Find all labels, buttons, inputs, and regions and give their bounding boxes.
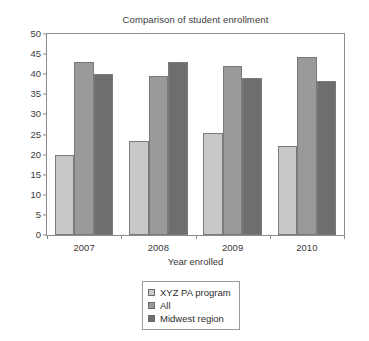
y-axis-tick-mark: [43, 214, 47, 215]
legend-item-label: All: [160, 301, 171, 311]
bar-chart: Comparison of student enrollment 0510152…: [0, 0, 369, 341]
x-axis-tick-mark: [47, 235, 48, 239]
bar: [203, 133, 223, 235]
legend-item-label: XYZ PA program: [160, 288, 231, 298]
y-axis-tick-label: 10: [30, 190, 41, 200]
y-axis-tick-mark: [43, 154, 47, 155]
bar: [317, 81, 337, 235]
y-axis-tick-label: 20: [30, 150, 41, 160]
legend-swatch-icon: [148, 302, 155, 309]
x-axis-tick-label: 2008: [148, 242, 169, 253]
x-axis-tick-mark: [121, 235, 122, 239]
y-axis-tick-mark: [43, 114, 47, 115]
legend-swatch-icon: [148, 289, 155, 296]
bar: [278, 146, 298, 235]
plot-area: 051015202530354045502007200820092010: [46, 33, 345, 236]
plot-inner: 051015202530354045502007200820092010: [47, 34, 344, 235]
y-axis-tick-mark: [43, 194, 47, 195]
x-axis-tick-mark: [196, 235, 197, 239]
legend-item-label: Midwest region: [160, 314, 224, 324]
legend-item: All: [148, 299, 231, 312]
y-axis-tick-label: 40: [30, 69, 41, 79]
x-axis-tick-mark: [344, 235, 345, 239]
bar: [242, 78, 262, 235]
bar: [55, 155, 75, 235]
x-axis-tick-mark: [270, 235, 271, 239]
y-axis-tick-label: 25: [30, 130, 41, 140]
y-axis-tick-mark: [43, 34, 47, 35]
y-axis-tick-label: 5: [36, 210, 41, 220]
legend-swatch-icon: [148, 315, 155, 322]
x-axis-tick-label: 2007: [74, 242, 95, 253]
chart-legend: XYZ PA programAllMidwest region: [142, 281, 240, 330]
bar: [149, 76, 169, 235]
y-axis-tick-mark: [43, 174, 47, 175]
y-axis-tick-mark: [43, 94, 47, 95]
legend-item: XYZ PA program: [148, 286, 231, 299]
y-axis-tick-label: 45: [30, 49, 41, 59]
x-axis-title: Year enrolled: [46, 256, 345, 267]
y-axis-tick-mark: [43, 74, 47, 75]
bar: [129, 141, 149, 235]
bar: [297, 57, 317, 235]
y-axis-tick-label: 15: [30, 170, 41, 180]
y-axis-tick-label: 35: [30, 90, 41, 100]
legend-item: Midwest region: [148, 312, 231, 325]
bar: [168, 62, 188, 235]
bar: [74, 62, 94, 235]
bar: [94, 74, 114, 235]
x-axis-tick-label: 2010: [296, 242, 317, 253]
y-axis-tick-mark: [43, 54, 47, 55]
y-axis-tick-label: 50: [30, 29, 41, 39]
bar: [223, 66, 243, 235]
x-axis-tick-label: 2009: [222, 242, 243, 253]
y-axis-tick-mark: [43, 134, 47, 135]
y-axis-tick-label: 0: [36, 230, 41, 240]
chart-title: Comparison of student enrollment: [46, 14, 345, 25]
y-axis-tick-label: 30: [30, 110, 41, 120]
